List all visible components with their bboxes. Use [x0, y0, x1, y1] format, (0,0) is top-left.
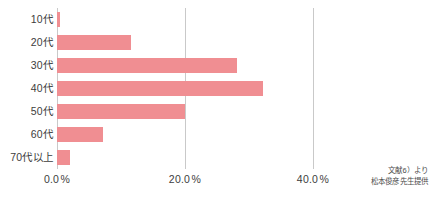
x-axis-tick-value: 40.0 — [297, 173, 318, 185]
x-axis-tick-label-1: 20.0% — [169, 173, 201, 185]
bar-row — [57, 100, 313, 123]
x-axis-tick-label-0: 0.0% — [44, 173, 70, 185]
bar-row — [57, 146, 313, 169]
y-axis-tick-label: 30代 — [1, 54, 53, 77]
y-axis-tick-label: 70代以上 — [1, 146, 53, 169]
y-axis-tick-0: 10代 — [0, 8, 53, 31]
x-axis-tick-unit: % — [61, 173, 71, 185]
y-axis-tick-label: 60代 — [1, 123, 53, 146]
y-axis-tick-3: 40代 — [0, 77, 53, 100]
y-axis-tick-label: 50代 — [1, 100, 53, 123]
source-attribution: 文献6）より 松本俊彦先生提供 — [371, 165, 428, 187]
bar-10dai — [57, 12, 60, 27]
bar-50dai — [57, 104, 185, 119]
y-axis-tick-1: 20代 — [0, 31, 53, 54]
bar-30dai — [57, 58, 237, 73]
bar-40dai — [57, 81, 263, 96]
x-axis-tick-unit: % — [320, 173, 330, 185]
y-axis-tick-label: 10代 — [1, 8, 53, 31]
y-axis-tick-4: 50代 — [0, 100, 53, 123]
bar-row — [57, 123, 313, 146]
source-reference-line: 文献6）より — [371, 165, 428, 176]
bar-20dai — [57, 35, 131, 50]
y-axis-tick-5: 60代 — [0, 123, 53, 146]
bar-row — [57, 31, 313, 54]
x-axis-tick-unit: % — [192, 173, 202, 185]
source-credit-line: 松本俊彦先生提供 — [371, 176, 428, 187]
x-axis-tick-label-2: 40.0% — [297, 173, 329, 185]
bar-row — [57, 8, 313, 31]
bar-60dai — [57, 127, 103, 142]
bar-70dai-ijou — [57, 150, 70, 165]
y-axis-tick-label: 40代 — [1, 77, 53, 100]
gridline-40pct — [313, 8, 314, 169]
bar-row — [57, 54, 313, 77]
horizontal-bar-chart: 10代 20代 30代 40代 50代 60代 70代以上 0.0% 20.0%… — [0, 0, 434, 202]
x-axis-tick-value: 0.0 — [44, 173, 59, 185]
y-axis-tick-2: 30代 — [0, 54, 53, 77]
y-axis-tick-label: 20代 — [1, 31, 53, 54]
plot-area — [57, 8, 313, 169]
y-axis-labels: 10代 20代 30代 40代 50代 60代 70代以上 — [0, 8, 53, 169]
bar-row — [57, 77, 313, 100]
x-axis-tick-value: 20.0 — [169, 173, 190, 185]
y-axis-tick-6: 70代以上 — [0, 146, 53, 169]
